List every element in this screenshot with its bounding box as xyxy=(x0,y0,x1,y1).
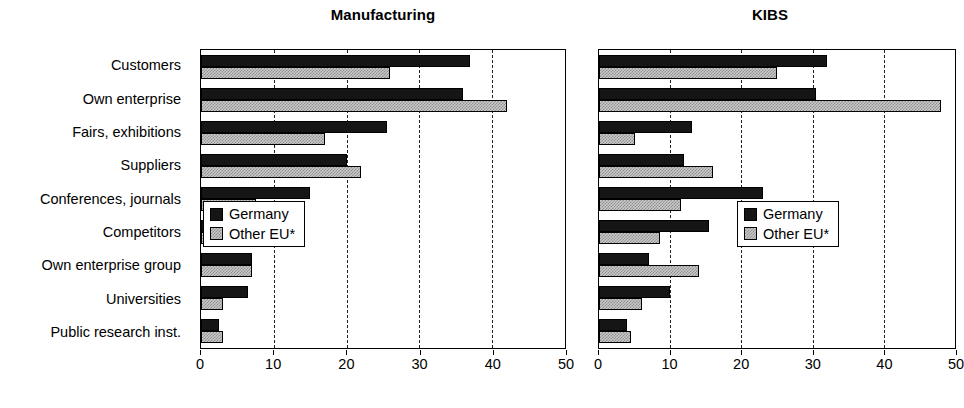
bar-other-eu xyxy=(201,265,252,277)
bar-germany xyxy=(599,88,816,100)
legend-entry-germany: Germany xyxy=(744,207,829,222)
x-tick xyxy=(493,350,494,355)
bar-other-eu xyxy=(599,199,681,211)
bar-group xyxy=(599,83,955,116)
bar-other-eu xyxy=(599,67,777,79)
legend-manufacturing: Germany Other EU* xyxy=(203,201,305,247)
panel-kibs: KIBS 01020304050 Germany Other EU* xyxy=(590,0,954,408)
bar-germany xyxy=(599,286,670,298)
bar-groups-manufacturing xyxy=(201,50,565,348)
category-label: Universities xyxy=(0,282,190,315)
bar-group xyxy=(599,249,955,282)
x-tick xyxy=(670,350,671,355)
panel-title-kibs: KIBS xyxy=(590,6,950,23)
x-tick xyxy=(956,350,957,355)
bar-other-eu xyxy=(201,133,325,145)
x-axis-manufacturing: 01020304050 xyxy=(200,350,566,380)
x-tick-label: 0 xyxy=(594,356,602,372)
category-label: Fairs, exhibitions xyxy=(0,116,190,149)
bar-germany xyxy=(599,55,827,67)
legend-kibs: Germany Other EU* xyxy=(737,201,839,247)
bar-other-eu xyxy=(201,67,390,79)
bar-germany xyxy=(599,253,649,265)
bar-germany xyxy=(201,253,252,265)
bar-germany xyxy=(599,121,692,133)
bar-germany xyxy=(201,55,470,67)
category-label: Public research inst. xyxy=(0,316,190,349)
x-tick-label: 30 xyxy=(412,356,428,372)
bar-other-eu xyxy=(599,100,941,112)
legend-entry-germany: Germany xyxy=(210,207,295,222)
x-tick xyxy=(566,350,567,355)
bar-germany xyxy=(599,154,684,166)
legend-entry-other-eu: Other EU* xyxy=(744,227,829,242)
plot-area-manufacturing xyxy=(200,49,566,349)
bar-other-eu xyxy=(201,100,507,112)
panel-manufacturing: Manufacturing CustomersOwn enterpriseFai… xyxy=(0,0,590,408)
bar-group xyxy=(201,249,565,282)
legend-swatch-other-eu-icon xyxy=(210,227,223,240)
bar-groups-kibs xyxy=(599,50,955,348)
x-tick-label: 10 xyxy=(265,356,281,372)
bar-other-eu xyxy=(201,331,223,343)
plot-area-kibs xyxy=(598,49,956,349)
legend-swatch-other-eu-icon xyxy=(744,227,757,240)
bar-germany xyxy=(201,121,387,133)
x-tick xyxy=(273,350,274,355)
legend-label-other-eu: Other EU* xyxy=(229,227,295,242)
bar-other-eu xyxy=(201,166,361,178)
bar-group xyxy=(599,282,955,315)
legend-entry-other-eu: Other EU* xyxy=(210,227,295,242)
category-label: Customers xyxy=(0,49,190,82)
bar-germany xyxy=(201,154,347,166)
bar-germany xyxy=(599,319,627,331)
bar-group xyxy=(599,50,955,83)
x-tick xyxy=(884,350,885,355)
bar-group xyxy=(201,83,565,116)
bar-group xyxy=(201,149,565,182)
bar-germany xyxy=(201,187,310,199)
category-label: Competitors xyxy=(0,216,190,249)
category-label: Conferences, journals xyxy=(0,182,190,215)
x-tick-label: 20 xyxy=(733,356,749,372)
x-tick-label: 10 xyxy=(662,356,678,372)
x-axis-kibs: 01020304050 xyxy=(598,350,956,380)
x-tick xyxy=(813,350,814,355)
bar-group xyxy=(201,116,565,149)
legend-label-germany: Germany xyxy=(229,207,289,222)
bar-other-eu xyxy=(599,265,699,277)
panel-title-manufacturing: Manufacturing xyxy=(200,6,566,23)
bar-group xyxy=(599,149,955,182)
bar-germany xyxy=(201,286,248,298)
category-label: Own enterprise xyxy=(0,82,190,115)
bar-other-eu xyxy=(599,133,635,145)
legend-swatch-germany-icon xyxy=(744,208,757,221)
x-tick xyxy=(741,350,742,355)
x-tick-label: 40 xyxy=(485,356,501,372)
bar-other-eu xyxy=(599,166,713,178)
bar-germany xyxy=(201,88,463,100)
bar-germany xyxy=(201,319,219,331)
x-tick-label: 0 xyxy=(196,356,204,372)
category-label: Own enterprise group xyxy=(0,249,190,282)
bar-germany xyxy=(599,187,763,199)
bar-group xyxy=(599,315,955,348)
x-tick xyxy=(346,350,347,355)
legend-label-other-eu: Other EU* xyxy=(763,227,829,242)
x-tick-label: 30 xyxy=(805,356,821,372)
bar-group xyxy=(201,282,565,315)
bar-other-eu xyxy=(201,298,223,310)
bar-other-eu xyxy=(599,298,642,310)
x-tick xyxy=(420,350,421,355)
legend-swatch-germany-icon xyxy=(210,208,223,221)
legend-label-germany: Germany xyxy=(763,207,823,222)
x-tick-label: 20 xyxy=(338,356,354,372)
bar-group xyxy=(599,116,955,149)
category-axis-labels: CustomersOwn enterpriseFairs, exhibition… xyxy=(0,49,190,349)
x-tick-label: 40 xyxy=(876,356,892,372)
x-tick-label: 50 xyxy=(948,356,964,372)
bar-group xyxy=(201,50,565,83)
x-tick xyxy=(598,350,599,355)
bar-germany xyxy=(599,220,709,232)
